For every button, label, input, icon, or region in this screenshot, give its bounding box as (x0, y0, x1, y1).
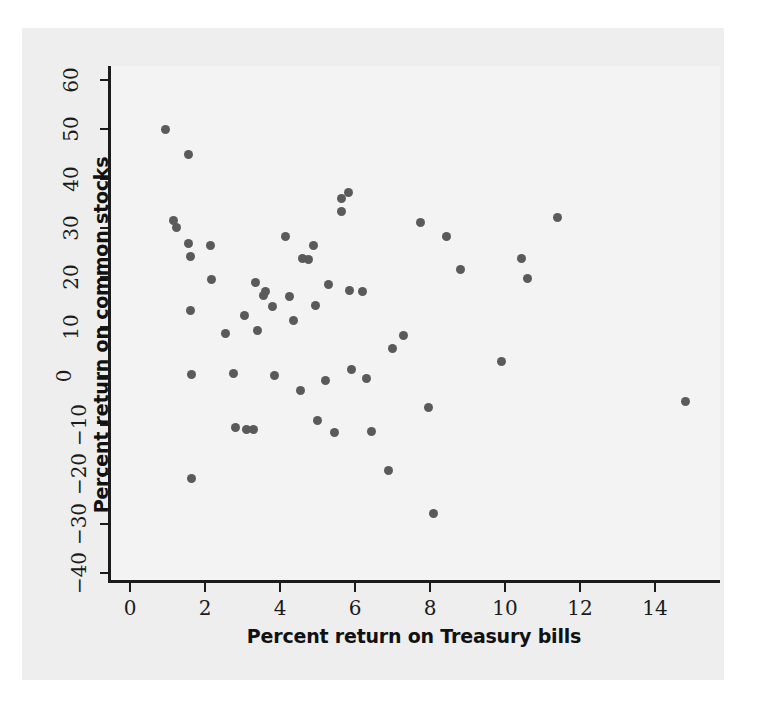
scatter-point (345, 286, 354, 295)
y-tick-label: 10 (59, 314, 83, 339)
y-tick-label: 60 (59, 67, 83, 92)
x-tick-label: 2 (199, 596, 212, 620)
y-tick-label: −40 (67, 552, 91, 594)
scatter-point (186, 306, 195, 315)
scatter-point (388, 344, 397, 353)
scatter-point (362, 374, 371, 383)
x-tick-label: 14 (642, 596, 667, 620)
y-tick-label: 30 (59, 215, 83, 240)
x-tick (279, 583, 281, 592)
scatter-point (309, 241, 318, 250)
scatter-point (229, 369, 238, 378)
scatter-point (161, 125, 170, 134)
x-tick (579, 583, 581, 592)
x-tick (429, 583, 431, 592)
scatter-point (330, 428, 339, 437)
scatter-point (497, 357, 506, 366)
y-tick-label: −20 (67, 453, 91, 495)
x-tick (654, 583, 656, 592)
y-tick-label: −30 (67, 503, 91, 545)
scatter-point (681, 397, 690, 406)
y-axis-title: Percent return on common stocks (90, 75, 112, 595)
scatter-point (184, 239, 193, 248)
scatter-point (337, 207, 346, 216)
plot-panel (108, 66, 720, 583)
y-tick-label: 0 (52, 369, 76, 382)
x-tick (504, 583, 506, 592)
x-tick (354, 583, 356, 592)
y-tick-label: 40 (59, 166, 83, 191)
x-axis-title: Percent return on Treasury bills (108, 625, 720, 647)
scatter-plot: 02468101214 −40−30−20−100102030405060 Pe… (0, 0, 767, 709)
x-tick (204, 583, 206, 592)
x-tick-label: 12 (567, 596, 592, 620)
scatter-point (424, 403, 433, 412)
x-tick-label: 6 (349, 596, 362, 620)
scatter-point (240, 311, 249, 320)
x-tick-label: 8 (424, 596, 437, 620)
y-tick-label: −10 (67, 404, 91, 446)
scatter-point (553, 213, 562, 222)
scatter-point (289, 316, 298, 325)
scatter-point (523, 274, 532, 283)
x-tick (129, 583, 131, 592)
scatter-point (296, 386, 305, 395)
scatter-point (344, 188, 353, 197)
scatter-point (253, 326, 262, 335)
scatter-point (321, 376, 330, 385)
y-tick-label: 20 (59, 264, 83, 289)
y-tick-label: 50 (59, 117, 83, 142)
scatter-point (251, 278, 260, 287)
x-tick-label: 0 (124, 596, 137, 620)
scatter-point (231, 423, 240, 432)
x-tick-label: 10 (492, 596, 517, 620)
scatter-point (261, 287, 270, 296)
x-tick-label: 4 (274, 596, 287, 620)
scatter-point (456, 265, 465, 274)
scatter-point (206, 241, 215, 250)
